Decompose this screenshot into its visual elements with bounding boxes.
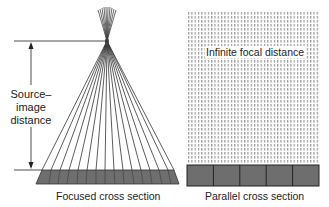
parallel-caption: Parallel cross section	[205, 190, 304, 202]
focused-caption: Focused cross section	[56, 190, 160, 202]
source-fan	[98, 7, 116, 41]
infinite-focal-distance-label: Infinite focal distance	[205, 46, 305, 58]
focused-detector	[36, 170, 179, 184]
projection-rays	[42, 41, 174, 170]
parallel-detector	[187, 165, 319, 186]
parallel-ray-field	[188, 12, 320, 164]
parallel-diagram	[187, 12, 320, 186]
source-image-distance-label: Source– image distance	[6, 88, 56, 127]
